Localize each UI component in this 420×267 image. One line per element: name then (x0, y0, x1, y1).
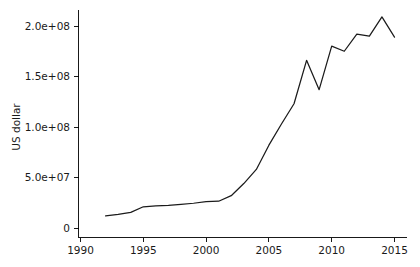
y-axis-ticks (74, 26, 79, 228)
x-tick-label-5: 2015 (381, 244, 408, 256)
y-tick-label-2: 1.0e+08 (25, 121, 70, 133)
x-tick-label-1: 1995 (130, 244, 157, 256)
y-tick-label-0: 0 (63, 222, 70, 234)
x-axis-tick-labels: 1990 1995 2000 2005 2010 2015 (67, 244, 408, 256)
x-tick-label-4: 2010 (318, 244, 345, 256)
data-series-line (106, 17, 395, 216)
x-axis-ticks (81, 238, 395, 243)
y-tick-label-1: 5.0e+07 (25, 171, 70, 183)
line-chart: 0 5.0e+07 1.0e+08 1.5e+08 2.0e+08 US dol… (0, 0, 420, 267)
chart-container: 0 5.0e+07 1.0e+08 1.5e+08 2.0e+08 US dol… (0, 0, 420, 267)
y-axis-title: US dollar (10, 103, 22, 151)
y-axis-tick-labels: 0 5.0e+07 1.0e+08 1.5e+08 2.0e+08 (25, 20, 70, 234)
y-tick-label-3: 1.5e+08 (25, 70, 70, 82)
x-tick-label-2: 2000 (193, 244, 220, 256)
x-tick-label-0: 1990 (67, 244, 94, 256)
y-tick-label-4: 2.0e+08 (25, 20, 70, 32)
y-axis-group: 0 5.0e+07 1.0e+08 1.5e+08 2.0e+08 US dol… (10, 10, 79, 238)
x-axis-group: 1990 1995 2000 2005 2010 2015 (67, 238, 408, 257)
x-tick-label-3: 2005 (256, 244, 283, 256)
